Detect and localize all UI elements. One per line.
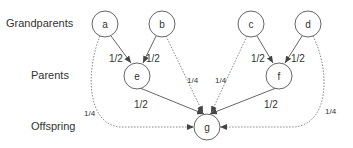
node-label-a: a (102, 19, 108, 30)
node-label-d: d (305, 19, 311, 30)
node-label-b: b (159, 19, 165, 30)
weight-d-f: 1/2 (291, 53, 305, 64)
weight-c-g: 1/4 (215, 76, 227, 85)
weight-a-g: 1/4 (84, 109, 96, 118)
weight-a-e: 1/2 (109, 53, 123, 64)
weight-c-f: 1/2 (251, 53, 265, 64)
edge-e-g (140, 88, 204, 114)
node-label-c: c (249, 19, 254, 30)
weight-f-g: 1/2 (264, 99, 278, 110)
weight-d-g: 1/4 (325, 107, 337, 116)
weight-e-g: 1/2 (134, 99, 148, 110)
node-label-f: f (278, 71, 281, 82)
weight-b-g: 1/4 (187, 76, 199, 85)
edge-b-g (166, 36, 203, 113)
node-label-g: g (204, 122, 210, 133)
pedigree-diagram: 1/2 1/2 1/2 1/2 1/2 1/2 1/4 1/4 1/4 1/4 … (0, 0, 353, 148)
weight-b-e: 1/2 (146, 53, 160, 64)
node-label-e: e (134, 71, 140, 82)
